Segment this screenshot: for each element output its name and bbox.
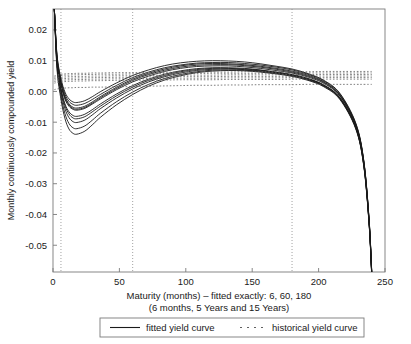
y-tick-label: 0.02 [29, 24, 48, 35]
y-tick-label: 0.00 [29, 86, 48, 97]
fitted-yield-curve-line [54, 9, 371, 275]
y-tick-label: -0.05 [25, 240, 47, 251]
x-tick-label: 200 [311, 276, 327, 287]
x-axis-subtitle: (6 months, 5 Years and 15 Years) [149, 302, 290, 313]
x-tick-label: 50 [114, 276, 125, 287]
historical-yield-curve-line [54, 71, 371, 76]
y-axis-title: Monthly continuously compounded yield [6, 61, 16, 221]
x-tick-label: 150 [244, 276, 260, 287]
legend-label-historical: historical yield curve [272, 322, 358, 333]
fitted-yield-curve-line [54, 9, 371, 274]
fitted-yield-curve-line [54, 9, 371, 274]
x-tick-label: 100 [178, 276, 194, 287]
legend-label-fitted: fitted yield curve [146, 322, 215, 333]
y-tick-label: -0.03 [25, 178, 47, 189]
y-tick-label: 0.01 [29, 55, 48, 66]
chart-canvas: 0.020.010.00-0.01-0.02-0.03-0.04-0.05050… [0, 0, 411, 344]
fitted-yield-curve-line [54, 9, 371, 273]
fitted-yield-curve-line [54, 9, 371, 274]
fitted-yield-curve-line [54, 9, 371, 272]
fitted-yield-curve-line [54, 9, 371, 272]
x-tick-label: 0 [50, 276, 55, 287]
historical-yield-curve-line [54, 73, 371, 77]
fitted-yield-curve-line [54, 9, 371, 273]
fitted-yield-curve-line [54, 9, 371, 271]
plot-frame [53, 9, 385, 272]
y-tick-label: -0.02 [25, 147, 47, 158]
fitted-yield-curve-line [54, 9, 371, 275]
x-axis-title: Maturity (months) – fitted exactly: 6, 6… [127, 290, 312, 301]
y-tick-label: -0.01 [25, 117, 47, 128]
y-tick-label: -0.04 [25, 209, 47, 220]
x-tick-label: 250 [377, 276, 393, 287]
yield-curve-figure: 0.020.010.00-0.01-0.02-0.03-0.04-0.05050… [0, 0, 411, 344]
